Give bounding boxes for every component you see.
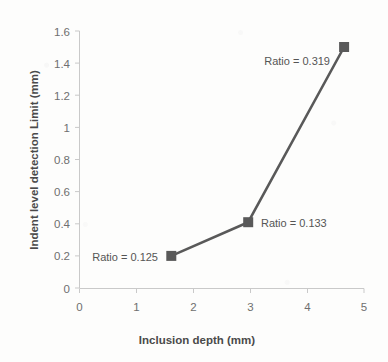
y-tick-label: 1.2 [54, 90, 70, 102]
x-tick-label: 3 [247, 301, 253, 313]
y-tick-label: 1.4 [54, 58, 71, 70]
x-tick-label: 5 [361, 301, 367, 313]
data-point-marker[interactable] [243, 217, 253, 227]
annotation-ratio-0133: Ratio = 0.133 [261, 217, 327, 229]
y-tick-label: 1.6 [54, 26, 70, 38]
y-axis-ticks [75, 31, 80, 288]
chart-container: 1.6 1.4 1.2 1 0.8 0.6 0.4 0.2 0 0 1 2 3 … [0, 0, 388, 362]
x-tick-labels: 0 1 2 3 4 5 [76, 301, 367, 313]
line-chart: 1.6 1.4 1.2 1 0.8 0.6 0.4 0.2 0 0 1 2 3 … [0, 0, 388, 362]
data-point-marker[interactable] [339, 42, 349, 52]
x-tick-label: 2 [190, 301, 196, 313]
y-tick-label: 0.6 [54, 186, 70, 198]
y-tick-label: 0 [64, 283, 70, 295]
x-axis-title: Inclusion depth (mm) [139, 334, 255, 346]
x-tick-label: 0 [76, 301, 82, 313]
y-tick-label: 0.8 [54, 154, 70, 166]
data-point-marker[interactable] [166, 251, 176, 261]
x-tick-label: 4 [304, 301, 311, 313]
x-tick-label: 1 [133, 301, 139, 313]
y-tick-label: 1 [64, 122, 70, 134]
y-tick-labels: 1.6 1.4 1.2 1 0.8 0.6 0.4 0.2 0 [54, 26, 71, 295]
y-tick-label: 0.4 [54, 218, 71, 230]
y-axis-title: Indent level detection Limit (mm) [28, 70, 40, 250]
annotation-ratio-0319: Ratio = 0.319 [264, 55, 330, 67]
annotation-ratio-0125: Ratio = 0.125 [92, 251, 158, 263]
y-tick-label: 0.2 [54, 250, 70, 262]
x-axis-ticks [80, 289, 365, 294]
